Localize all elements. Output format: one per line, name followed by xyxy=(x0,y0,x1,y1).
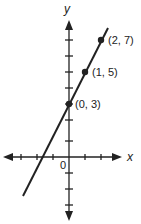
point-label-0-3: (0, 3) xyxy=(75,99,101,110)
point-0-3 xyxy=(66,101,72,107)
point-1-5 xyxy=(82,69,88,75)
x-axis-arrow-right-icon xyxy=(112,153,122,161)
point-label-1-5: (1, 5) xyxy=(92,67,118,78)
point-2-7 xyxy=(98,37,104,43)
y-axis-arrow-up-icon xyxy=(65,20,73,30)
x-axis-label: x xyxy=(127,151,133,163)
x-axis-arrow-left-icon xyxy=(3,153,13,161)
point-label-2-7: (2, 7) xyxy=(108,35,134,46)
y-axis-arrow-down-icon xyxy=(65,211,73,221)
origin-label: 0 xyxy=(60,160,66,171)
y-axis xyxy=(65,26,73,214)
y-axis-label: y xyxy=(64,3,70,15)
